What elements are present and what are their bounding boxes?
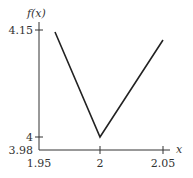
y-axis-label: f(x) (26, 7, 46, 20)
x-tick-label-right: 2.05 (151, 157, 176, 170)
y-tick-label-top: 4.15 (9, 24, 34, 37)
chart: f(x) 4.15 4 3.98 1.95 2 2.05 x (0, 0, 193, 178)
y-tick-label-mid: 4 (26, 131, 33, 144)
x-tick-label-left: 1.95 (27, 157, 52, 170)
x-tick-label-mid: 2 (97, 157, 104, 170)
x-axis-label: x (176, 143, 183, 156)
y-tick-label-bottom: 3.98 (9, 144, 34, 157)
function-line (55, 32, 163, 137)
